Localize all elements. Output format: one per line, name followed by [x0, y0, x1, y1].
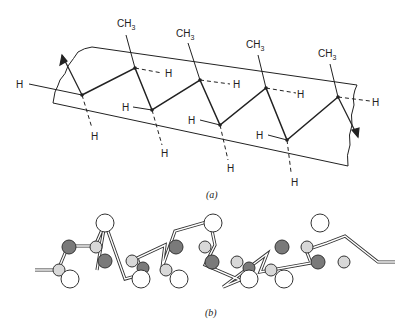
arrow-left-icon	[60, 55, 82, 95]
atom	[275, 240, 289, 254]
atom	[170, 270, 188, 288]
atom	[98, 254, 112, 268]
atom	[90, 241, 102, 253]
svg-text:CH3: CH3	[246, 39, 264, 52]
atom	[160, 264, 172, 276]
svg-text:H: H	[122, 102, 129, 113]
svg-text:CH3: CH3	[176, 28, 194, 41]
atom	[275, 270, 293, 288]
svg-text:H: H	[233, 79, 240, 90]
backbone	[82, 68, 338, 140]
part-b-ball-and-stick: (b)	[35, 214, 395, 319]
atom	[231, 256, 243, 268]
atom	[311, 214, 329, 232]
atom	[132, 270, 150, 288]
svg-text:CH3: CH3	[318, 48, 336, 61]
atom	[62, 240, 76, 254]
svg-text:H: H	[256, 130, 263, 141]
svg-text:H: H	[165, 68, 172, 79]
svg-text:H: H	[16, 79, 23, 90]
atom	[338, 256, 350, 268]
polymer-diagram: H CH3 CH3 CH3 CH3 H H H H H H H H H H H …	[0, 0, 398, 333]
caption-a: (a)	[206, 189, 218, 201]
svg-text:H: H	[161, 148, 168, 159]
atom	[205, 255, 219, 269]
atom	[301, 241, 313, 253]
arrow-right-icon	[338, 97, 359, 137]
atom	[240, 270, 258, 288]
svg-text:H: H	[227, 163, 234, 174]
atom	[204, 214, 222, 232]
atom	[126, 255, 138, 267]
atom	[96, 214, 114, 232]
atom	[169, 240, 183, 254]
plane-outline	[53, 47, 357, 166]
atom	[265, 264, 277, 276]
svg-text:H: H	[297, 89, 304, 100]
atom	[311, 255, 325, 269]
svg-text:H: H	[372, 97, 379, 108]
atom	[61, 270, 79, 288]
part-a-labels: H CH3 CH3 CH3 CH3 H H H H H H H H H H H …	[16, 18, 379, 201]
atom	[199, 241, 211, 253]
svg-text:H: H	[188, 115, 195, 126]
svg-text:H: H	[91, 131, 98, 142]
svg-text:CH3: CH3	[117, 18, 135, 31]
caption-b: (b)	[205, 307, 217, 319]
svg-text:H: H	[291, 177, 298, 188]
